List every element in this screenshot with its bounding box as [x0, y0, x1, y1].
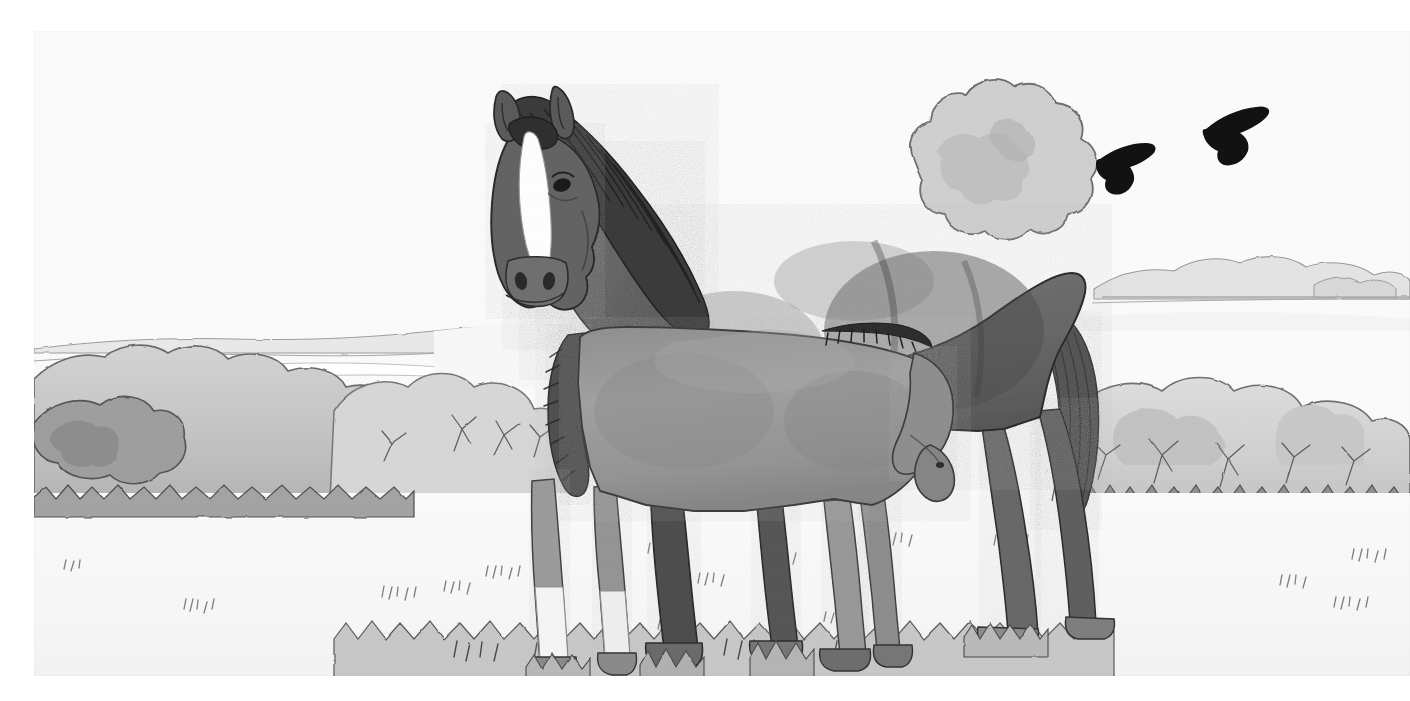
scene-artwork — [34, 31, 1410, 676]
illustration-plate — [34, 31, 1410, 676]
foal-hind-hoof-far — [874, 645, 913, 667]
clipped-header-text — [1155, 0, 1405, 5]
foal-hind-hoof — [820, 649, 871, 671]
foal-sock-far — [600, 591, 630, 657]
illustration-page: Mare and foal standing in a field open p… — [0, 0, 1410, 701]
foal-front-hoof-far — [598, 653, 637, 675]
mare-hind-hoof-far — [1066, 617, 1115, 639]
foal-sock-near — [535, 587, 568, 661]
